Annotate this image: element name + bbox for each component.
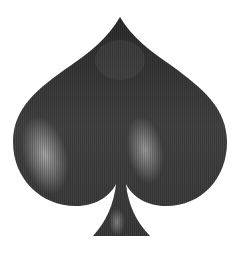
spade-image: Glossy black spade symbol with vertical … [0,0,243,255]
spade-icon [0,0,243,255]
